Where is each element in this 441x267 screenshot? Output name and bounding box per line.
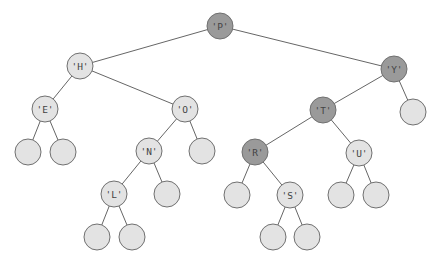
tree-node-r: 'R' (242, 139, 268, 165)
node-label: 'T' (314, 105, 331, 116)
tree-node-p: 'P' (207, 13, 233, 39)
node-circle (328, 182, 354, 208)
tree-diagram: 'P''H''Y''E''O''T''N''R''U''L''S' (0, 0, 441, 267)
node-label: 'L' (105, 189, 122, 200)
node-circle (260, 224, 286, 250)
tree-node-empty (119, 224, 145, 250)
node-circle (15, 139, 41, 165)
node-circle (294, 224, 320, 250)
node-label: 'Y' (385, 64, 402, 75)
node-circle (154, 181, 180, 207)
tree-node-empty (294, 224, 320, 250)
node-label: 'S' (281, 190, 298, 201)
tree-node-u: 'U' (346, 140, 372, 166)
tree-node-empty (400, 99, 426, 125)
tree-edge-p-h (80, 26, 220, 66)
node-circle (400, 99, 426, 125)
node-label: 'H' (71, 61, 88, 72)
node-label: 'O' (176, 104, 193, 115)
tree-node-empty (328, 182, 354, 208)
tree-node-e: 'E' (32, 96, 58, 122)
node-label: 'N' (140, 146, 157, 157)
node-label: 'P' (211, 21, 228, 32)
node-circle (189, 138, 215, 164)
tree-node-h: 'H' (67, 53, 93, 79)
tree-node-empty (84, 224, 110, 250)
tree-node-empty (15, 139, 41, 165)
tree-node-empty (50, 139, 76, 165)
tree-node-o: 'O' (172, 96, 198, 122)
tree-node-n: 'N' (136, 138, 162, 164)
node-label: 'U' (350, 148, 367, 159)
node-label: 'E' (36, 104, 53, 115)
tree-node-t: 'T' (310, 97, 336, 123)
tree-node-y: 'Y' (381, 56, 407, 82)
tree-node-empty (363, 182, 389, 208)
node-circle (363, 182, 389, 208)
tree-nodes: 'P''H''Y''E''O''T''N''R''U''L''S' (15, 13, 426, 250)
tree-node-empty (260, 224, 286, 250)
node-circle (50, 139, 76, 165)
node-circle (224, 182, 250, 208)
tree-node-empty (189, 138, 215, 164)
tree-node-empty (224, 182, 250, 208)
tree-node-s: 'S' (277, 182, 303, 208)
tree-edge-h-o (80, 66, 185, 109)
tree-node-l: 'L' (101, 181, 127, 207)
node-label: 'R' (246, 147, 263, 158)
node-circle (84, 224, 110, 250)
tree-edge-p-y (220, 26, 394, 69)
tree-node-empty (154, 181, 180, 207)
node-circle (119, 224, 145, 250)
